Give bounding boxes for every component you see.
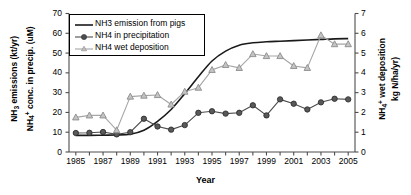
data-point-marker [223,111,228,116]
data-point-marker [345,97,350,102]
chart-figure: NH3 emissions (kt/yr) NH4+ conc. in prec… [0,0,411,195]
data-point-marker [182,122,187,127]
plot-area [0,0,411,195]
data-point-marker [318,32,324,38]
data-point-marker [318,100,323,105]
legend-item-nh4-precipitation: NH4 in precipitation [73,29,201,41]
data-point-marker [264,113,269,118]
data-point-marker [196,110,201,115]
data-point-marker [291,101,296,106]
legend-label-nh4-deposition: NH4 wet deposition [95,42,169,52]
data-point-marker [87,130,92,135]
data-point-marker [128,130,133,135]
data-point-marker [237,110,242,115]
legend-label-nh3-emission: NH3 emission from pigs [95,18,185,28]
legend-key-circle-icon [73,29,95,41]
data-point-marker [155,124,160,129]
data-point-marker [209,109,214,114]
legend-item-nh3-emission: NH3 emission from pigs [73,17,201,29]
data-point-marker [250,103,255,108]
data-point-marker [168,127,173,132]
legend: NH3 emission from pigs NH4 in precipitat… [69,14,205,56]
data-point-marker [277,97,282,102]
legend-key-line-icon [73,17,95,29]
data-point-marker [305,107,310,112]
data-point-marker [100,129,105,134]
legend-label-nh4-precipitation: NH4 in precipitation [95,30,169,40]
legend-item-nh4-deposition: NH4 wet deposition [73,41,201,53]
legend-key-triangle-icon [73,41,95,53]
data-point-marker [290,63,296,69]
data-point-marker [73,130,78,135]
data-point-marker [222,62,228,68]
data-point-marker [141,116,146,121]
data-point-marker [332,96,337,101]
data-point-marker [250,51,256,57]
